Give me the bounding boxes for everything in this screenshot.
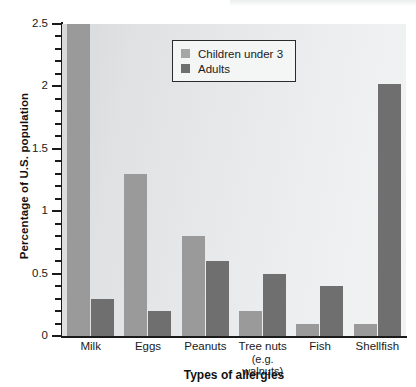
bar: [354, 324, 377, 336]
bar-group: [291, 24, 348, 336]
y-tick-minor: [55, 260, 61, 262]
bar: [239, 311, 262, 336]
x-tick-label: Shellfish: [349, 340, 406, 353]
y-tick-label: 2.5: [8, 17, 48, 29]
chart-legend: Children under 3 Adults: [172, 40, 296, 82]
y-tick-minor: [55, 285, 61, 287]
y-tick-minor: [55, 173, 61, 175]
bar: [67, 24, 90, 336]
legend-swatch-children-icon: [181, 49, 190, 58]
bar-group: [119, 24, 176, 336]
legend-entry-adults: Adults: [181, 61, 283, 76]
y-tick-minor: [55, 60, 61, 62]
legend-entry-children: Children under 3: [181, 46, 283, 61]
y-tick-minor: [55, 198, 61, 200]
y-tick-minor: [55, 110, 61, 112]
y-tick-minor: [55, 235, 61, 237]
x-axis-title: Types of allergies: [62, 368, 406, 382]
y-tick-minor: [55, 73, 61, 75]
bar: [378, 84, 401, 336]
legend-label-adults: Adults: [198, 63, 230, 75]
x-tick-label: Fish: [291, 340, 348, 353]
y-tick-major: [52, 148, 61, 150]
x-tick-label: Peanuts: [177, 340, 234, 353]
y-tick-minor: [55, 185, 61, 187]
y-tick-major: [52, 273, 61, 275]
bar: [206, 261, 229, 336]
x-tick-label: Milk: [62, 340, 119, 353]
bar: [182, 236, 205, 336]
y-tick-major: [52, 335, 61, 337]
y-tick-label: 0: [8, 329, 48, 341]
bar: [91, 299, 114, 336]
y-tick-major: [52, 23, 61, 25]
bar: [263, 274, 286, 336]
legend-swatch-adults-icon: [181, 64, 190, 73]
bar: [296, 324, 319, 336]
bar: [320, 286, 343, 336]
y-tick-minor: [55, 160, 61, 162]
y-tick-minor: [55, 298, 61, 300]
x-tick-label: Eggs: [119, 340, 176, 353]
bar: [148, 311, 171, 336]
y-tick-minor: [55, 223, 61, 225]
y-tick-minor: [55, 135, 61, 137]
y-tick-minor: [55, 48, 61, 50]
y-tick-major: [52, 85, 61, 87]
allergy-bar-chart: 00.511.522.5 Percentage of U.S. populati…: [0, 0, 416, 387]
y-tick-minor: [55, 248, 61, 250]
y-tick-minor: [55, 323, 61, 325]
y-tick-minor: [55, 123, 61, 125]
y-tick-minor: [55, 310, 61, 312]
y-tick-minor: [55, 98, 61, 100]
y-axis-title: Percentage of U.S. population: [18, 66, 30, 286]
legend-label-children: Children under 3: [198, 48, 283, 60]
scan-artifact-band: [230, 0, 416, 6]
bar-group: [349, 24, 406, 336]
x-axis-line: [61, 336, 407, 338]
bar: [124, 174, 147, 336]
y-tick-minor: [55, 35, 61, 37]
y-tick-major: [52, 210, 61, 212]
bar-group: [62, 24, 119, 336]
